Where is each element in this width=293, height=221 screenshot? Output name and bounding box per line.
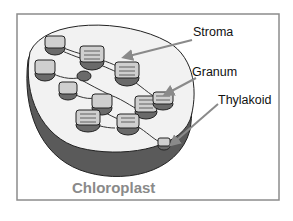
chloroplast-diagram: Stroma Granum Thylakoid Chloroplast xyxy=(0,0,293,221)
granum-stack xyxy=(115,62,139,86)
granum-stack-highlighted xyxy=(153,92,173,110)
label-stroma: Stroma xyxy=(193,25,233,39)
granum-stack xyxy=(76,110,100,132)
diagram-title: Chloroplast xyxy=(72,179,155,196)
granum-stack xyxy=(77,71,91,81)
granum-stack xyxy=(35,60,55,81)
granum-stack xyxy=(117,114,139,135)
thylakoid-disc xyxy=(158,138,170,150)
label-granum: Granum xyxy=(192,65,237,79)
granum-stack xyxy=(80,46,104,70)
granum-stack xyxy=(59,82,77,100)
granum-stack xyxy=(45,36,65,55)
label-thylakoid: Thylakoid xyxy=(218,93,272,107)
